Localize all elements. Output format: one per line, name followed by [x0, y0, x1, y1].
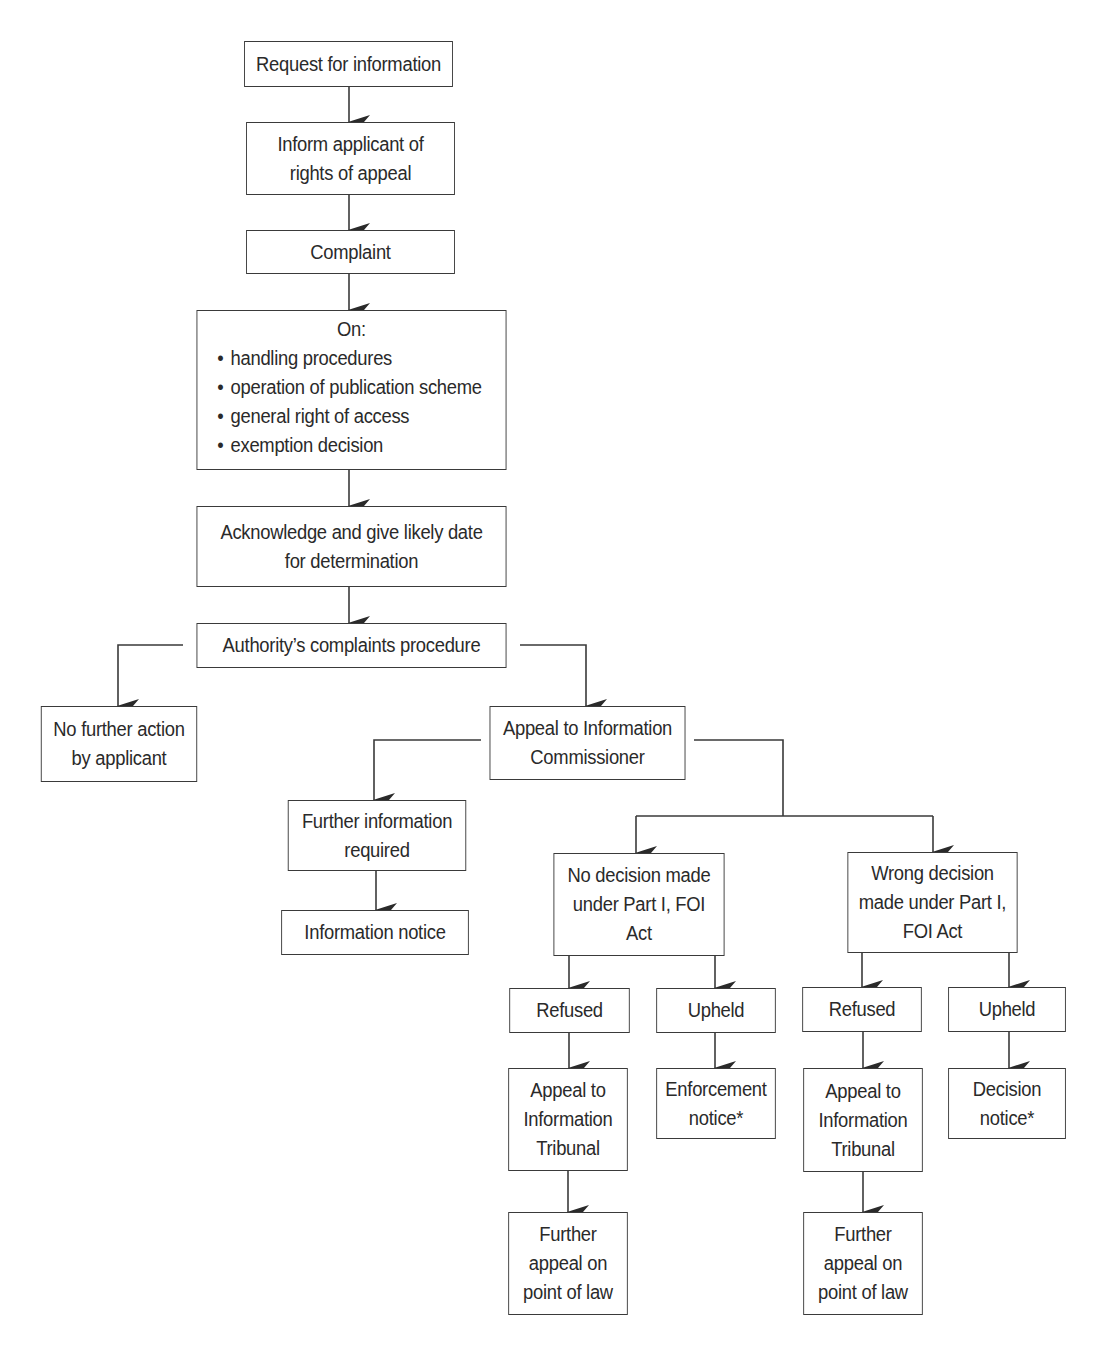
node-appeal-tribunal-right: Appeal to Information Tribunal	[803, 1068, 923, 1172]
node-authority-complaints-procedure: Authority’s complaints procedure	[196, 623, 506, 668]
node-further-appeal-right: Further appeal on point of law	[803, 1212, 923, 1315]
node-further-appeal-left: Further appeal on point of law	[508, 1212, 628, 1315]
node-upheld-right: Upheld	[948, 987, 1066, 1032]
node-enforcement-notice: Enforcement notice*	[656, 1068, 776, 1139]
node-no-further-action: No further action by applicant	[41, 706, 197, 782]
bullet-icon: •	[210, 344, 230, 373]
node-refused-left: Refused	[509, 988, 630, 1033]
node-further-information-required: Further information required	[288, 800, 466, 871]
arrow-authority-to-no-action	[118, 645, 183, 706]
bullet-item: •general right of access	[210, 402, 409, 431]
node-complaint-topics: On: •handling procedures •operation of p…	[196, 310, 506, 470]
node-decision-notice: Decision notice*	[948, 1068, 1066, 1139]
arrow-appeal-ic-to-further-info	[374, 740, 481, 800]
node-no-decision-made: No decision made under Part I, FOI Act	[553, 853, 724, 956]
bullet-icon: •	[210, 373, 230, 402]
bullet-icon: •	[210, 431, 230, 460]
bullet-item: •operation of publication scheme	[210, 373, 482, 402]
node-refused-right: Refused	[802, 987, 922, 1032]
node-information-notice: Information notice	[281, 910, 469, 955]
node-complaint: Complaint	[246, 230, 455, 274]
node-upheld-left: Upheld	[656, 988, 776, 1033]
bullet-icon: •	[210, 402, 230, 431]
node-wrong-decision-made: Wrong decision made under Part I, FOI Ac…	[847, 852, 1017, 953]
node-appeal-information-commissioner: Appeal to Information Commissioner	[490, 706, 686, 780]
arrow-authority-to-appeal-ic	[520, 645, 586, 706]
node-appeal-tribunal-left: Appeal to Information Tribunal	[508, 1068, 628, 1171]
connector-appeal-ic-right	[694, 740, 783, 816]
node-inform-applicant: Inform applicant of rights of appeal	[246, 122, 455, 195]
node-acknowledge: Acknowledge and give likely date for det…	[196, 506, 506, 587]
bullet-item: •exemption decision	[210, 431, 383, 460]
bullet-item: •handling procedures	[210, 344, 392, 373]
node-request-for-information: Request for information	[244, 41, 453, 87]
